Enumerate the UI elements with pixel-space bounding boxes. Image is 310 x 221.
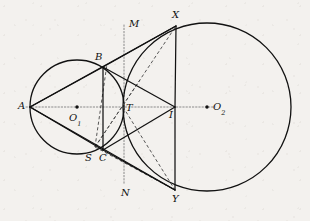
- point-label-s: S: [85, 153, 92, 163]
- point-label-x: X: [172, 10, 179, 20]
- center-label-o1: O1: [69, 113, 81, 126]
- geometry-figure: A B C S T I M N X Y O1 O2: [0, 0, 310, 221]
- center-label-o2: O2: [213, 102, 225, 115]
- point-label-n: N: [121, 188, 130, 198]
- center-label-o1-main: O: [69, 112, 77, 123]
- point-label-a: A: [18, 101, 25, 111]
- dashed-lines-group: [95, 26, 176, 190]
- dashed-SB: [95, 64, 107, 147]
- dashed-TY: [123, 107, 175, 190]
- dot-O2: [205, 105, 208, 108]
- segment-BI: [103, 67, 175, 107]
- dashed-ST: [95, 80, 140, 147]
- center-label-o2-sub: 2: [221, 109, 225, 117]
- point-label-c: C: [99, 153, 107, 163]
- solid-lines-group: [30, 26, 176, 190]
- segment-CI: [103, 107, 175, 150]
- geometry-canvas: [0, 0, 310, 221]
- point-label-t: T: [126, 103, 133, 113]
- point-label-i: I: [169, 110, 173, 120]
- point-label-m: M: [129, 19, 139, 29]
- center-label-o2-main: O: [213, 101, 221, 112]
- point-label-b: B: [95, 52, 102, 62]
- point-label-y: Y: [172, 194, 179, 204]
- dot-O1: [75, 105, 78, 108]
- center-label-o1-sub: 1: [77, 120, 81, 128]
- segment-XI: [175, 26, 176, 107]
